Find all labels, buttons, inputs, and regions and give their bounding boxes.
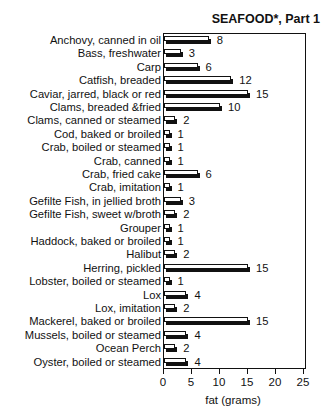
x-tick	[163, 369, 164, 374]
x-axis-label: fat (grams)	[163, 394, 303, 406]
bar	[164, 344, 175, 349]
bar	[164, 210, 175, 215]
value-label: 15	[256, 315, 268, 327]
x-tick-label: 10	[207, 376, 231, 388]
value-label: 1	[178, 222, 184, 234]
category-label: Crab, fried cake	[82, 168, 161, 180]
x-tick-label: 15	[235, 376, 259, 388]
category-label: Halibut	[126, 248, 161, 260]
x-tick-label: 0	[151, 376, 175, 388]
bar	[164, 49, 181, 54]
bar	[164, 331, 186, 336]
x-tick-label: 20	[263, 376, 287, 388]
value-label: 2	[183, 248, 189, 260]
value-label: 1	[178, 275, 184, 287]
bar	[164, 317, 248, 322]
category-label: Gefilte Fish, sweet w/broth	[29, 208, 161, 220]
x-tick	[191, 369, 192, 374]
value-label: 3	[189, 47, 195, 59]
category-label: Lox, imitation	[95, 302, 161, 314]
bar	[164, 183, 170, 188]
category-label: Haddock, baked or broiled	[30, 235, 161, 247]
x-tick	[247, 369, 248, 374]
category-label: Clams, breaded &fried	[50, 101, 161, 113]
value-label: 10	[228, 101, 240, 113]
value-label: 8	[217, 34, 223, 46]
category-label: Ocean Perch	[96, 342, 161, 354]
bar	[164, 358, 186, 363]
bar	[164, 130, 170, 135]
x-tick	[219, 369, 220, 374]
bar	[164, 291, 186, 296]
x-tick	[303, 369, 304, 374]
value-label: 2	[183, 302, 189, 314]
bar	[164, 143, 170, 148]
category-label: Lobster, boiled or steamed	[29, 275, 161, 287]
value-label: 1	[178, 235, 184, 247]
value-label: 4	[194, 356, 200, 368]
value-label: 15	[256, 88, 268, 100]
value-label: 6	[206, 61, 212, 73]
category-label: Herring, pickled	[83, 262, 161, 274]
category-label: Catfish, breaded	[79, 74, 161, 86]
bar	[164, 237, 170, 242]
value-label: 3	[189, 195, 195, 207]
category-label: Mackerel, baked or broiled	[29, 315, 161, 327]
category-label: Cod, baked or broiled	[54, 128, 161, 140]
x-tick-label: 25	[291, 376, 315, 388]
bar	[164, 76, 231, 81]
category-label: Gefilte Fish, in jellied broth	[29, 195, 161, 207]
bar	[164, 304, 175, 309]
value-label: 4	[194, 329, 200, 341]
value-label: 2	[183, 208, 189, 220]
bar	[164, 224, 170, 229]
bar	[164, 63, 198, 68]
bar	[164, 197, 181, 202]
bar	[164, 157, 170, 162]
value-label: 4	[194, 289, 200, 301]
bar	[164, 116, 175, 121]
category-label: Lox	[143, 289, 161, 301]
category-label: Crab, canned	[94, 155, 161, 167]
value-label: 1	[178, 181, 184, 193]
x-tick-label: 5	[179, 376, 203, 388]
value-label: 1	[178, 155, 184, 167]
category-label: Mussels, boiled or steamed	[25, 329, 161, 341]
bar	[164, 170, 198, 175]
value-label: 12	[239, 74, 251, 86]
category-label: Caviar, jarred, black or red	[30, 88, 161, 100]
bar	[164, 90, 248, 95]
bar	[164, 250, 175, 255]
category-label: Crab, boiled or steamed	[42, 141, 161, 153]
value-label: 1	[178, 128, 184, 140]
category-label: Grouper	[120, 222, 161, 234]
value-label: 6	[206, 168, 212, 180]
category-label: Clams, canned or steamed	[27, 114, 161, 126]
bar	[164, 264, 248, 269]
category-label: Carp	[137, 61, 161, 73]
bar	[164, 36, 209, 41]
category-label: Crab, imitation	[89, 181, 161, 193]
category-label: Anchovy, canned in oil	[50, 34, 161, 46]
bar	[164, 277, 170, 282]
value-label: 2	[183, 114, 189, 126]
category-label: Bass, freshwater	[78, 47, 161, 59]
value-label: 15	[256, 262, 268, 274]
value-label: 2	[183, 342, 189, 354]
category-label: Oyster, boiled or steamed	[34, 356, 161, 368]
chart-title: SEAFOOD*, Part 1	[195, 12, 320, 26]
value-label: 1	[178, 141, 184, 153]
x-tick	[275, 369, 276, 374]
bar	[164, 103, 220, 108]
